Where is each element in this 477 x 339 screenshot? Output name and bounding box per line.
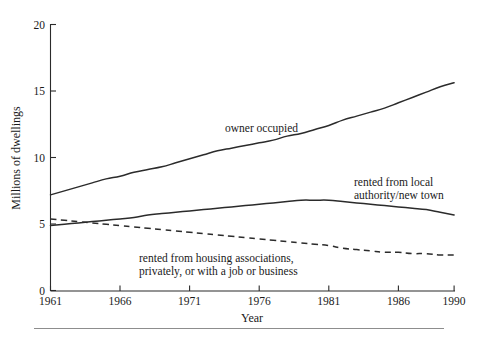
x-axis-ticks (51, 286, 455, 292)
y-axis-title: Millions of dwellings (9, 106, 23, 210)
y-tick-label-5: 5 (39, 218, 45, 230)
annotation-owner-occupied: owner occupied (225, 122, 298, 135)
annotation-rented-local-authority-line1: rented from local (354, 176, 433, 188)
x-axis-tick-labels: 1961 1966 1971 1976 1981 1986 1990 (39, 295, 466, 307)
housing-tenure-line-chart: 20 15 10 5 0 1961 1966 1971 1976 1981 19… (0, 0, 477, 339)
annotation-rented-housing-associations-line2: privately, or with a job or business (139, 265, 298, 278)
y-axis-tick-labels: 20 15 10 5 0 (34, 19, 46, 297)
y-tick-label-20: 20 (34, 19, 46, 31)
annotation-rented-housing-associations: rented from housing associations, privat… (139, 252, 298, 278)
footer-divider (34, 328, 444, 329)
x-tick-label-1990: 1990 (443, 295, 466, 307)
annotation-rented-local-authority: rented from local authority/new town (354, 176, 444, 202)
x-tick-label-1966: 1966 (109, 295, 132, 307)
y-axis-ticks (51, 25, 57, 291)
x-tick-label-1976: 1976 (248, 295, 271, 307)
x-tick-label-1971: 1971 (178, 295, 201, 307)
x-axis-title: Year (241, 311, 263, 325)
y-tick-label-15: 15 (34, 85, 46, 97)
y-tick-label-10: 10 (34, 152, 46, 164)
series-line-rented-housing-associations (51, 219, 455, 255)
series-line-rented-local-authority (51, 200, 455, 225)
x-tick-label-1986: 1986 (387, 295, 410, 307)
x-tick-label-1981: 1981 (317, 295, 340, 307)
x-tick-label-1961: 1961 (39, 295, 62, 307)
annotation-rented-local-authority-line2: authority/new town (354, 189, 444, 202)
annotation-rented-housing-associations-line1: rented from housing associations, (139, 252, 294, 265)
chart-figure: 20 15 10 5 0 1961 1966 1971 1976 1981 19… (0, 0, 477, 339)
